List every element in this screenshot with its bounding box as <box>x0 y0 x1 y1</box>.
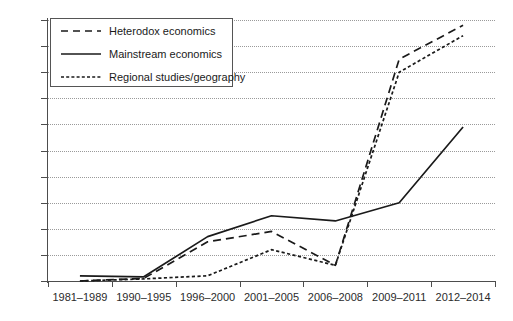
dashed-line-swatch <box>61 25 101 37</box>
x-tick-mark <box>303 281 304 287</box>
x-tick-mark <box>495 281 496 287</box>
x-tick-mark <box>367 281 368 287</box>
x-axis-line <box>46 281 496 282</box>
x-tick-label: 1996–2000 <box>180 291 235 303</box>
legend-label: Mainstream economics <box>109 48 222 60</box>
gridline <box>48 151 495 153</box>
legend-item-regional-studies-geography: Regional studies/geography <box>51 65 232 88</box>
x-tick-mark <box>240 281 241 287</box>
gridline <box>48 255 495 257</box>
line-chart: 05101520253035404550 1981–19891990–19951… <box>0 0 513 321</box>
legend: Heterodox economics Mainstream economics… <box>50 18 233 87</box>
gridline <box>48 124 495 126</box>
gridline <box>48 229 495 231</box>
x-tick-label: 1990–1995 <box>116 291 171 303</box>
legend-item-mainstream-economics: Mainstream economics <box>51 42 232 65</box>
x-tick-mark <box>431 281 432 287</box>
x-tick-mark <box>112 281 113 287</box>
gridline <box>48 98 495 100</box>
gridline <box>48 177 495 179</box>
x-tick-label: 2009–2011 <box>372 291 426 303</box>
y-axis-line <box>47 18 48 283</box>
legend-item-heterodox-economics: Heterodox economics <box>51 19 232 42</box>
x-tick-mark <box>176 281 177 287</box>
x-tick-label: 1981–1989 <box>52 291 107 303</box>
solid-line-swatch <box>61 48 101 60</box>
legend-label: Heterodox economics <box>109 25 215 37</box>
x-tick-label: 2001–2005 <box>244 291 299 303</box>
x-tick-mark <box>48 281 49 287</box>
x-tick-label: 2012–2014 <box>436 291 491 303</box>
dotted-line-swatch <box>61 71 101 83</box>
gridline <box>48 203 495 205</box>
x-tick-label: 2006–2008 <box>308 291 363 303</box>
legend-label: Regional studies/geography <box>109 71 245 83</box>
